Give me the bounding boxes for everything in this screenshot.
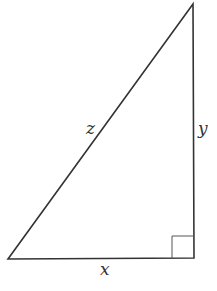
triangle [8,4,194,259]
label-hypotenuse: z [85,118,96,138]
label-horizontal-leg: x [100,259,110,279]
right-angle-marker [172,236,194,258]
right-triangle-diagram: z y x [0,0,217,291]
label-vertical-leg: y [197,118,208,138]
